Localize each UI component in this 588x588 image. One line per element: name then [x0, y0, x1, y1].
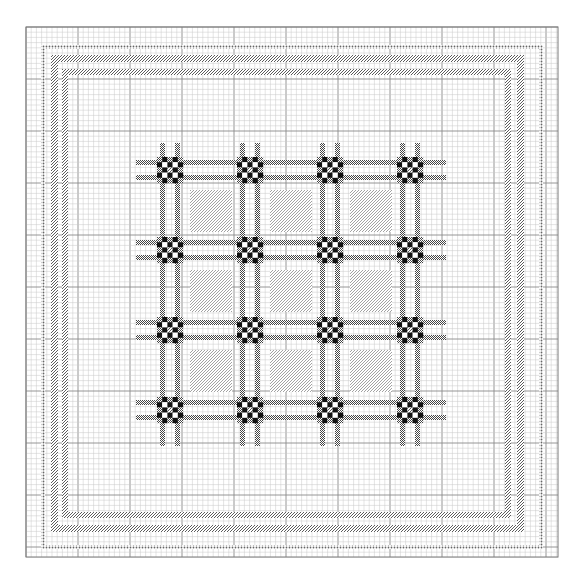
crossing-motif	[237, 157, 263, 183]
hatched-panel	[190, 350, 232, 392]
hatched-panel	[190, 270, 232, 312]
crossing-motif	[317, 397, 343, 423]
crossing-motif	[397, 397, 423, 423]
crossing-motif	[237, 317, 263, 343]
hatched-panel	[270, 350, 312, 392]
crossing-motif	[157, 397, 183, 423]
hatched-panel	[270, 190, 312, 232]
crossing-motif	[157, 157, 183, 183]
hatched-panel	[190, 190, 232, 232]
crossing-motif	[397, 237, 423, 263]
crossing-motif	[317, 237, 343, 263]
crossing-motif	[317, 157, 343, 183]
cross-stitch-chart	[0, 0, 588, 588]
crossing-motif	[237, 237, 263, 263]
hatched-panel	[270, 270, 312, 312]
crossing-motif	[157, 237, 183, 263]
hatched-panel	[350, 270, 392, 312]
crossing-motif	[397, 317, 423, 343]
crossing-motif	[317, 317, 343, 343]
crossing-motif	[237, 397, 263, 423]
hatched-panel	[350, 350, 392, 392]
hatched-panels	[190, 190, 392, 392]
crossing-motif	[157, 317, 183, 343]
crossing-motif	[397, 157, 423, 183]
hatched-panel	[350, 190, 392, 232]
